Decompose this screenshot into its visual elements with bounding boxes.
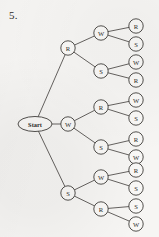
node-label: S — [134, 185, 138, 192]
tree-edge — [108, 35, 129, 42]
node-label: W — [133, 154, 140, 161]
tree-node-level-3-s: S — [129, 111, 143, 125]
tree-node-level-3-r: R — [129, 73, 143, 87]
node-label: W — [98, 30, 105, 37]
tree-node-level-2-r: R — [94, 202, 108, 216]
node-label: S — [99, 144, 103, 151]
tree-node-level-3-r: R — [129, 163, 143, 177]
node-label: R — [66, 45, 71, 52]
tree-edge — [108, 73, 129, 78]
node-label: Start — [28, 121, 43, 128]
node-label: S — [134, 115, 138, 122]
node-label: W — [133, 221, 140, 228]
tree-edge — [74, 52, 95, 67]
node-label: S — [66, 190, 70, 197]
tree-node-level-3-s: S — [129, 199, 143, 213]
node-label: R — [134, 136, 139, 143]
tree-edge — [74, 180, 94, 190]
scanned-page: 5. StartRWSWSRSWRRSWRWSRWRSSW — [0, 0, 159, 237]
tree-node-level-3-w: W — [129, 150, 143, 164]
tree-node-level-2-r: R — [94, 100, 108, 114]
node-label: R — [134, 23, 139, 30]
node-label: R — [99, 206, 104, 213]
tree-edge — [39, 131, 65, 186]
tree-node-level-3-s: S — [129, 37, 143, 51]
tree-node-level-1-w: W — [61, 117, 75, 131]
tree-edge — [108, 109, 129, 116]
node-label: S — [134, 41, 138, 48]
node-label: R — [134, 167, 139, 174]
tree-edge — [108, 141, 129, 146]
tree-node-level-2-w: W — [94, 170, 108, 184]
tree-edge — [108, 64, 129, 69]
tree-node-level-3-s: S — [129, 181, 143, 195]
node-label: W — [98, 174, 105, 181]
node-label: S — [134, 203, 138, 210]
tree-node-level-2-s: S — [94, 64, 108, 78]
tree-node-level-1-r: R — [61, 41, 75, 55]
node-label: W — [133, 97, 140, 104]
node-label: R — [134, 77, 139, 84]
tree-node-level-3-w: W — [129, 217, 143, 231]
tree-edge — [75, 36, 95, 45]
tree-edge — [74, 196, 94, 206]
tree-edge — [108, 212, 130, 221]
tree-node-level-3-r: R — [129, 19, 143, 33]
tree-node-level-3-w: W — [129, 93, 143, 107]
tree-node-level-1-s: S — [61, 186, 75, 200]
node-label: W — [133, 59, 140, 66]
tree-edge — [108, 149, 129, 155]
tree-edge — [74, 128, 95, 143]
tree-edge — [108, 101, 129, 105]
start-node: Start — [18, 117, 52, 132]
tree-edge — [108, 207, 129, 209]
tree-edge — [74, 110, 94, 120]
node-label: S — [99, 68, 103, 75]
tree-edge — [108, 27, 129, 31]
probability-tree-diagram: StartRWSWSRSWRRSWRWSRWRSSW — [0, 0, 159, 237]
tree-node-level-3-r: R — [129, 132, 143, 146]
node-label: R — [99, 104, 104, 111]
tree-edge — [108, 171, 129, 175]
tree-node-level-2-s: S — [94, 140, 108, 154]
tree-edge — [38, 55, 65, 117]
tree-edge — [108, 179, 129, 186]
tree-node-level-3-w: W — [129, 55, 143, 69]
node-label: W — [65, 121, 72, 128]
tree-node-level-2-w: W — [94, 26, 108, 40]
